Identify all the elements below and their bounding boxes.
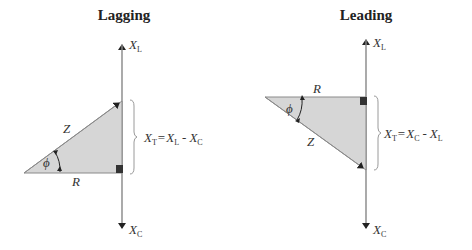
- lagging-panel: Lagging ϕ Z R XL XC XT=XL-XC: [24, 7, 203, 239]
- z-label: Z: [63, 121, 71, 136]
- xc-label: XC: [128, 222, 142, 239]
- r-label: R: [312, 81, 321, 96]
- lagging-title: Lagging: [98, 7, 151, 23]
- xl-label: XL: [372, 35, 386, 52]
- brace-icon: [374, 96, 381, 170]
- xc-label: XC: [372, 222, 386, 239]
- leading-title: Leading: [340, 7, 393, 23]
- xt-equation: XT=XC-XL: [383, 126, 443, 143]
- right-angle-marker: [360, 97, 367, 105]
- brace-icon: [130, 100, 137, 174]
- angle-phi-label: ϕ: [43, 155, 50, 170]
- right-angle-marker: [116, 165, 123, 173]
- impedance-diagrams: Lagging ϕ Z R XL XC XT=XL-XC Leading: [0, 0, 472, 250]
- leading-panel: Leading ϕ Z R XL XC XT=XC-XL: [265, 7, 443, 239]
- xt-equation: XT=XL-XC: [143, 130, 203, 147]
- xl-label: XL: [128, 37, 142, 54]
- angle-phi-label: ϕ: [286, 101, 293, 116]
- z-label: Z: [307, 134, 315, 149]
- r-label: R: [71, 174, 80, 189]
